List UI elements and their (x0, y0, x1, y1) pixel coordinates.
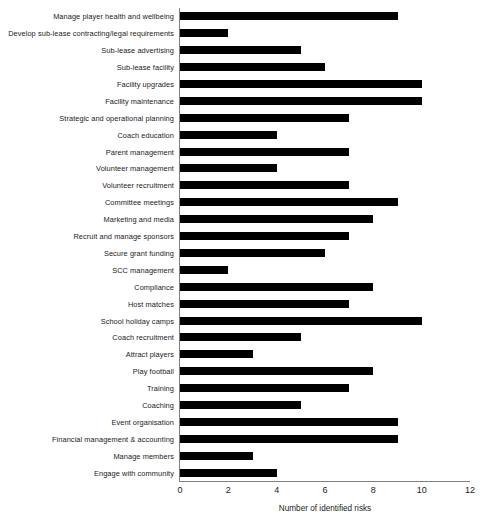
bar (180, 367, 373, 375)
x-tick-label: 10 (417, 485, 427, 496)
bar-category-label: Coach education (117, 130, 174, 139)
bar-row: Volunteer recruitment (180, 177, 470, 194)
bar-row: Recruit and manage sponsors (180, 228, 470, 245)
bar (180, 198, 398, 206)
bar (180, 317, 422, 325)
bar (180, 46, 301, 54)
bar-category-label: Recruit and manage sponsors (73, 232, 174, 241)
bar-category-label: Facility maintenance (105, 96, 174, 105)
bar-category-label: Manage player health and wellbeing (53, 12, 174, 21)
bar (180, 215, 373, 223)
bar (180, 452, 253, 460)
x-tick-label: 8 (371, 485, 376, 496)
bar (180, 114, 349, 122)
bar (180, 80, 422, 88)
bar-row: Develop sub-lease contracting/legal requ… (180, 25, 470, 42)
bar-row: Manage player health and wellbeing (180, 8, 470, 25)
bar-category-label: Manage members (113, 451, 174, 460)
bar-category-label: SCC management (112, 265, 174, 274)
bar-row: Strategic and operational planning (180, 109, 470, 126)
bar-row: Financial management & accounting (180, 430, 470, 447)
x-tick-label: 12 (465, 485, 475, 496)
bar-category-label: Engage with community (94, 468, 174, 477)
bar (180, 300, 349, 308)
bar (180, 12, 398, 20)
bar-row: Event organisation (180, 413, 470, 430)
bar (180, 350, 253, 358)
bar-category-label: Committee meetings (105, 198, 174, 207)
bar-row: Parent management (180, 143, 470, 160)
bar-category-label: Sub-lease facility (117, 63, 174, 72)
bar (180, 232, 349, 240)
x-tick-label: 2 (226, 485, 231, 496)
bar-category-label: Attract players (126, 350, 174, 359)
bar-row: Engage with community (180, 464, 470, 481)
bar-category-label: Marketing and media (104, 215, 174, 224)
bar-category-label: Facility upgrades (117, 80, 174, 89)
x-axis-line (179, 481, 470, 482)
bar (180, 469, 277, 477)
bar-row: Play football (180, 363, 470, 380)
bar-category-label: Compliance (134, 282, 174, 291)
bar-row: Facility maintenance (180, 92, 470, 109)
x-tick-label: 6 (322, 485, 327, 496)
x-axis-title: Number of identified risks (180, 504, 470, 514)
bar-row: Manage members (180, 447, 470, 464)
bar (180, 249, 325, 257)
horizontal-bar-chart: Manage player health and wellbeingDevelo… (0, 0, 485, 527)
bar-category-label: Secure grant funding (104, 248, 174, 257)
bar (180, 384, 349, 392)
bar-row: Facility upgrades (180, 76, 470, 93)
bar (180, 401, 301, 409)
bar-category-label: School holiday camps (101, 316, 174, 325)
bar-category-label: Financial management & accounting (52, 434, 174, 443)
bar (180, 29, 228, 37)
bar-category-label: Volunteer management (96, 164, 174, 173)
bar (180, 131, 277, 139)
bar-row: Training (180, 380, 470, 397)
bar-category-label: Coaching (142, 400, 174, 409)
x-tick-label: 0 (177, 485, 182, 496)
bar-category-label: Parent management (106, 147, 174, 156)
bar-row: Committee meetings (180, 194, 470, 211)
bar-row: Marketing and media (180, 211, 470, 228)
bar (180, 181, 349, 189)
bar-row: Coach recruitment (180, 329, 470, 346)
bar-category-label: Host matches (128, 299, 174, 308)
bar-row: Sub-lease facility (180, 59, 470, 76)
bar-category-label: Coach recruitment (112, 333, 174, 342)
bar (180, 164, 277, 172)
bar-row: Attract players (180, 346, 470, 363)
bar-row: School holiday camps (180, 312, 470, 329)
bar (180, 63, 325, 71)
bar-row: Coach education (180, 126, 470, 143)
bar-category-label: Play football (133, 367, 174, 376)
bar-row: SCC management (180, 261, 470, 278)
bar (180, 283, 373, 291)
bar-category-label: Sub-lease advertising (101, 46, 174, 55)
bar-category-label: Event organisation (111, 417, 174, 426)
bar-row: Host matches (180, 295, 470, 312)
x-tick-label: 4 (274, 485, 279, 496)
bar (180, 266, 228, 274)
bar (180, 97, 422, 105)
bar-category-label: Strategic and operational planning (59, 113, 174, 122)
bar-row: Secure grant funding (180, 245, 470, 262)
bar-row: Compliance (180, 278, 470, 295)
bar-category-label: Volunteer recruitment (102, 181, 174, 190)
bar-category-label: Training (147, 384, 174, 393)
bar (180, 333, 301, 341)
bar-row: Volunteer management (180, 160, 470, 177)
bar-row: Coaching (180, 397, 470, 414)
bar-category-label: Develop sub-lease contracting/legal requ… (8, 29, 174, 38)
bar (180, 435, 398, 443)
bar (180, 148, 349, 156)
bar (180, 418, 398, 426)
bar-row: Sub-lease advertising (180, 42, 470, 59)
